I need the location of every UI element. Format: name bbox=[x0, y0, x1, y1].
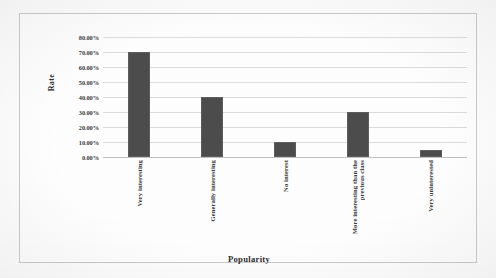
y-axis-tick-labels: 0.00%10.00%20.00%30.00%40.00%50.00%60.00… bbox=[47, 37, 99, 157]
x-axis-category-label: Generally interesting bbox=[209, 160, 216, 222]
gridline bbox=[103, 67, 467, 68]
figure-canvas: 0.00%10.00%20.00%30.00%40.00%50.00%60.00… bbox=[0, 0, 496, 278]
gridline bbox=[103, 52, 467, 53]
y-axis-tick-label: 60.00% bbox=[51, 64, 99, 71]
x-axis-category-label-line: Very interesting bbox=[136, 160, 143, 206]
y-axis-tick-label: 20.00% bbox=[51, 124, 99, 131]
bar[interactable] bbox=[201, 97, 223, 157]
x-axis-category-label: More interesting than theprevious class bbox=[351, 160, 365, 234]
plot-area bbox=[103, 37, 467, 157]
gridline bbox=[103, 157, 467, 158]
gridline bbox=[103, 127, 467, 128]
y-axis-tick-label: 50.00% bbox=[51, 79, 99, 86]
x-axis-category-label-line: Very uninterested bbox=[427, 160, 434, 212]
x-axis-title: Popularity bbox=[20, 254, 478, 264]
x-axis-category-label: Very interesting bbox=[136, 160, 143, 206]
x-axis-category-labels: Very interestingGenerally interestingNo … bbox=[103, 160, 467, 256]
bar[interactable] bbox=[347, 112, 369, 157]
y-axis-tick-label: 40.00% bbox=[51, 94, 99, 101]
y-axis-tick-label: 0.00% bbox=[51, 154, 99, 161]
gridline bbox=[103, 37, 467, 38]
x-axis-category-label: No interest bbox=[282, 160, 289, 192]
y-axis-tick-label: 70.00% bbox=[51, 49, 99, 56]
x-axis-category-label-line: More interesting than the bbox=[351, 160, 358, 234]
gridline bbox=[103, 112, 467, 113]
y-axis-tick-label: 30.00% bbox=[51, 109, 99, 116]
gridline bbox=[103, 82, 467, 83]
bar-chart: 0.00%10.00%20.00%30.00%40.00%50.00%60.00… bbox=[19, 13, 477, 263]
y-axis-tick-label: 80.00% bbox=[51, 34, 99, 41]
bar[interactable] bbox=[420, 150, 442, 158]
y-axis-title: Rate bbox=[47, 74, 56, 91]
gridline bbox=[103, 97, 467, 98]
bar[interactable] bbox=[128, 52, 150, 157]
y-axis-tick-label: 10.00% bbox=[51, 139, 99, 146]
bar[interactable] bbox=[274, 142, 296, 157]
x-axis-category-label-line: Generally interesting bbox=[209, 160, 216, 222]
x-axis-category-label-line: previous class bbox=[358, 160, 365, 200]
x-axis-category-label-line: No interest bbox=[282, 160, 289, 192]
x-axis-category-label: Very uninterested bbox=[427, 160, 434, 212]
